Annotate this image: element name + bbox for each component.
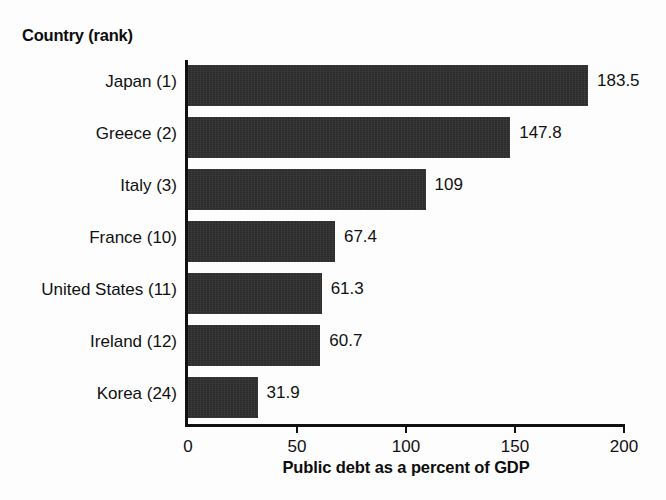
value-axis-title: Public debt as a percent of GDP — [188, 458, 624, 477]
chart-figure: Country (rank) Japan (1)183.5Greece (2)1… — [0, 0, 666, 500]
category-label: Italy (3) — [2, 177, 177, 194]
value-axis-tick — [296, 424, 298, 433]
value-axis-tick-label: 150 — [501, 438, 529, 455]
bar-value-label: 67.4 — [344, 228, 377, 245]
bar-value-label: 60.7 — [329, 332, 362, 349]
value-axis-tick-label: 100 — [392, 438, 420, 455]
bar-row: Korea (24)31.9 — [188, 372, 624, 424]
plot-area: Japan (1)183.5Greece (2)147.8Italy (3)10… — [188, 60, 624, 424]
bar-row: United States (11)61.3 — [188, 268, 624, 320]
bar-row: Japan (1)183.5 — [188, 60, 624, 112]
category-label: France (10) — [2, 229, 177, 246]
bar-row: Greece (2)147.8 — [188, 112, 624, 164]
bar — [188, 117, 510, 158]
value-axis-tick-label: 200 — [610, 438, 638, 455]
category-axis-header: Country (rank) — [22, 26, 133, 45]
bar-value-label: 183.5 — [597, 72, 640, 89]
bar-row: Italy (3)109 — [188, 164, 624, 216]
bar — [188, 169, 426, 210]
bar — [188, 273, 322, 314]
bar-value-label: 31.9 — [267, 384, 300, 401]
bar-value-label: 147.8 — [519, 124, 562, 141]
value-axis-tick — [405, 424, 407, 433]
value-axis-tick-label: 0 — [183, 438, 192, 455]
value-axis-tick-label: 50 — [288, 438, 307, 455]
bar — [188, 65, 588, 106]
bar — [188, 325, 320, 366]
bar — [188, 221, 335, 262]
bar-row: Ireland (12)60.7 — [188, 320, 624, 372]
bar-value-label: 109 — [435, 176, 463, 193]
category-label: Greece (2) — [2, 125, 177, 142]
value-axis-tick — [514, 424, 516, 433]
bar-row: France (10)67.4 — [188, 216, 624, 268]
category-label: Japan (1) — [2, 73, 177, 90]
bar — [188, 377, 258, 418]
category-label: Ireland (12) — [2, 333, 177, 350]
category-label: Korea (24) — [2, 385, 177, 402]
category-label: United States (11) — [2, 281, 177, 298]
bar-value-label: 61.3 — [331, 280, 364, 297]
value-axis-tick — [623, 424, 625, 433]
